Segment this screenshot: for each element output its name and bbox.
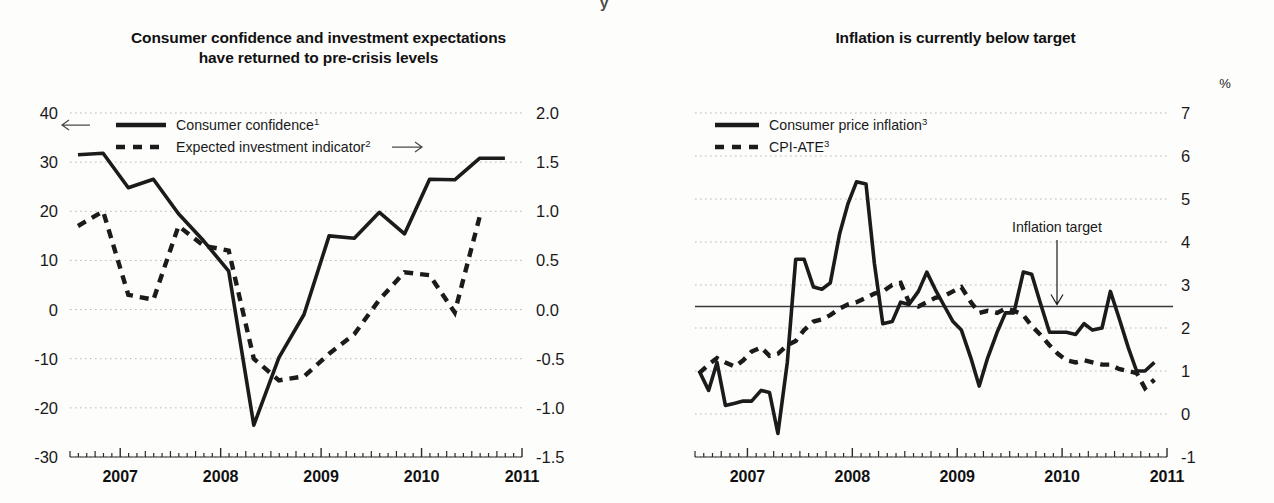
x-axis-year-label: 2008 (203, 468, 239, 485)
left-axis-tick-label: 20 (40, 202, 58, 220)
y-axis-tick-label: 3 (1181, 276, 1190, 294)
right-axis-tick-label: 0.0 (536, 301, 559, 319)
x-axis-year-label: 2010 (404, 468, 440, 485)
right-axis-tick-label: 0.5 (536, 251, 559, 269)
right-axis-labels: 2.01.51.00.50.0-0.5-1.0-1.5 (536, 104, 564, 466)
left-chart-svg: 403020100-10-20-302.01.51.00.50.0-0.5-1.… (0, 0, 637, 503)
right-x-axis (695, 448, 1167, 457)
y-axis-tick-label: 2 (1181, 319, 1190, 337)
inflation-target-annotation: Inflation target (1012, 219, 1102, 305)
series-line-cpi-ate (699, 283, 1154, 388)
x-axis-year-label: 2007 (102, 468, 138, 485)
consumer-confidence-panel: Consumer confidence and investment expec… (0, 0, 637, 503)
x-axis-year-label: 2008 (835, 468, 871, 485)
right-axis-tick-label: 1.0 (536, 202, 559, 220)
right-axis-labels: 76543210-1 (1181, 104, 1196, 466)
series-line-consumer-confidence (78, 153, 505, 425)
y-axis-tick-label: 0 (1181, 405, 1190, 423)
right-axis-tick-label: -1.0 (536, 399, 564, 417)
y-axis-tick-label: 5 (1181, 190, 1190, 208)
left-axis-tick-label: -30 (34, 448, 58, 466)
y-axis-tick-label: -1 (1181, 448, 1196, 466)
left-x-tick-labels: 20072008200920102011 (102, 468, 539, 485)
left-axis-tick-label: 30 (40, 153, 58, 171)
left-axis-tick-label: -10 (34, 350, 58, 368)
legend-label: Consumer confidence1 (176, 116, 319, 133)
inflation-target-arrow-icon (1051, 240, 1063, 305)
right-x-tick-labels: 20072008200920102011 (730, 468, 1185, 485)
legend-label: Expected investment indicator2 (176, 138, 371, 155)
right-axis-tick-label: -0.5 (536, 350, 564, 368)
legend-label: CPI-ATE3 (769, 138, 829, 155)
y-axis-tick-label: 4 (1181, 233, 1190, 251)
left-axis-tick-label: 40 (40, 104, 58, 122)
x-axis-year-label: 2011 (505, 468, 540, 485)
right-legend: Consumer price inflation3CPI-ATE3 (715, 116, 927, 155)
legend-left-arrow-icon (62, 120, 90, 130)
right-axis-tick-label: 2.0 (536, 104, 559, 122)
right-chart-svg: %76543210-120072008200920102011Inflation… (637, 0, 1274, 503)
left-axis-tick-label: 10 (40, 251, 58, 269)
left-x-axis (70, 448, 522, 457)
y-axis-tick-label: 7 (1181, 104, 1190, 122)
x-axis-year-label: 2011 (1150, 468, 1185, 485)
x-axis-year-label: 2009 (303, 468, 339, 485)
right-gridlines (695, 113, 1167, 457)
left-gridlines (70, 113, 522, 457)
inflation-target-label: Inflation target (1012, 219, 1102, 235)
y-axis-tick-label: 1 (1181, 362, 1190, 380)
x-axis-year-label: 2010 (1044, 468, 1080, 485)
left-axis-tick-label: 0 (49, 301, 58, 319)
x-axis-year-label: 2009 (939, 468, 975, 485)
x-axis-year-label: 2007 (730, 468, 766, 485)
legend-label: Consumer price inflation3 (769, 116, 927, 133)
right-axis-tick-label: 1.5 (536, 153, 559, 171)
left-legend: Consumer confidence1Expected investment … (62, 116, 422, 155)
right-axis-tick-label: -1.5 (536, 448, 564, 466)
legend-right-arrow-icon (392, 142, 422, 152)
y-axis-tick-label: 6 (1181, 147, 1190, 165)
left-axis-labels: 403020100-10-20-30 (34, 104, 58, 466)
unit-percent-label: % (1219, 76, 1231, 91)
inflation-panel: Inflation is currently below target %765… (637, 0, 1274, 503)
left-axis-tick-label: -20 (34, 399, 58, 417)
figure-page: y Consumer confidence and investment exp… (0, 0, 1274, 503)
